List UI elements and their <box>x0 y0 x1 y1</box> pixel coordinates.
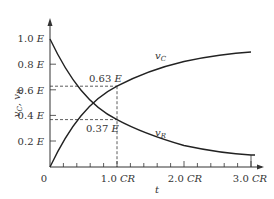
svg-text:2.0 CR: 2.0 CR <box>168 173 203 184</box>
svg-text:3.0 CR: 3.0 CR <box>233 173 268 184</box>
annotation-037: 0.37 E <box>86 123 119 134</box>
vc-curve <box>50 52 251 167</box>
x-axis-arrow-icon <box>257 165 264 170</box>
svg-text:1.0 CR: 1.0 CR <box>101 173 136 184</box>
svg-text:0.8 E: 0.8 E <box>18 59 45 70</box>
y-ticks <box>50 64 56 141</box>
x-tick-labels: 0 1.0 CR 2.0 CR 3.0 CR <box>41 173 268 184</box>
svg-text:0: 0 <box>41 173 47 184</box>
chart-svg: 1.0 E 0.8 E 0.6 E 0.4 E 0.2 E 0 1.0 CR 2… <box>0 0 274 199</box>
vc-label: vC <box>155 50 167 63</box>
svg-text:0.2 E: 0.2 E <box>18 136 45 147</box>
vr-label: vR <box>155 127 167 140</box>
annotation-063: 0.63 E <box>89 73 122 84</box>
rc-charging-chart: 1.0 E 0.8 E 0.6 E 0.4 E 0.2 E 0 1.0 CR 2… <box>0 0 274 199</box>
x-ticks <box>63 161 251 167</box>
y-axis-arrow-icon <box>48 18 53 26</box>
svg-text:1.0 E: 1.0 E <box>18 33 45 44</box>
x-axis-label: t <box>155 184 160 195</box>
vr-curve <box>50 39 255 155</box>
